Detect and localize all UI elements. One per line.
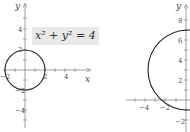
figure-canvas: y x 4 2 −2 −4 −2 2 4 <box>0 0 190 132</box>
right-y-tick-6: 6 <box>178 37 183 45</box>
left-x-tick-2: 2 <box>43 73 47 81</box>
right-y-tick-2: 2 <box>178 77 182 85</box>
right-y-tick-4: 4 <box>178 57 183 65</box>
right-y-tick-8: 8 <box>178 17 182 25</box>
right-circle-curve <box>148 30 190 110</box>
left-x-tick-neg2: −2 <box>0 73 10 81</box>
left-x-tick-4: 4 <box>64 73 69 81</box>
left-y-tick-4: 4 <box>18 26 23 34</box>
left-y-tick-2: 2 <box>18 46 22 54</box>
right-x-tick-neg4: −4 <box>139 104 150 112</box>
right-x-tick-neg2: −2 <box>160 104 170 112</box>
right-graph: y 8 6 4 2 −2 −4 −2 <box>126 1 190 132</box>
equation-label: x² + y² = 4 <box>32 27 99 45</box>
left-y-axis-label: y <box>14 1 21 11</box>
left-y-tick-neg2: −2 <box>15 87 25 95</box>
left-graph: y x 4 2 −2 −4 −2 2 4 <box>0 1 90 128</box>
right-y-axis-label: y <box>175 1 182 11</box>
right-y-tick-neg2: −2 <box>175 118 185 126</box>
left-y-tick-neg4: −4 <box>15 107 26 115</box>
left-x-axis-label: x <box>85 74 90 84</box>
